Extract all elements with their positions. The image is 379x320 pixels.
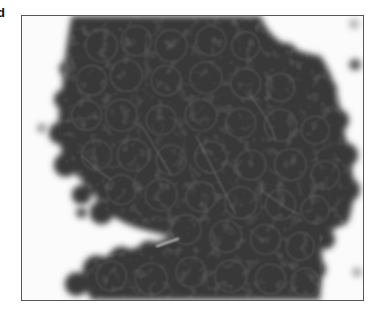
micrograph-frame <box>21 15 364 301</box>
cell-cluster-image <box>22 16 363 300</box>
panel-label: d <box>0 6 5 20</box>
cell-texture <box>22 16 363 300</box>
